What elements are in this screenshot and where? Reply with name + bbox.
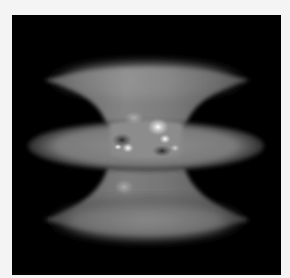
highlight [124,111,144,125]
highlight [122,143,134,153]
render-panel [12,15,281,275]
shadow-lobe [152,145,172,157]
highlight [114,144,122,150]
highlight [147,118,169,136]
highlight [114,179,134,195]
highlight [170,144,180,152]
bottom-flare [42,196,252,244]
surface-render [12,15,281,275]
highlight [159,134,171,144]
